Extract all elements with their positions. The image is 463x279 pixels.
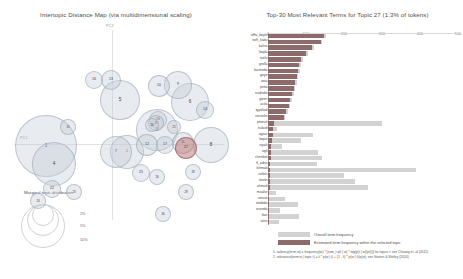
topic-bubble-label: 7 bbox=[115, 150, 117, 154]
bar-topic-frequency bbox=[268, 179, 270, 184]
topic-bubble-24[interactable]: 24 bbox=[30, 193, 46, 209]
topic-bubble-16[interactable]: 16 bbox=[85, 71, 103, 89]
topic-bubble-label: 6 bbox=[189, 100, 192, 105]
topic-bubble-label: 16 bbox=[92, 78, 96, 82]
term-label: tlan bbox=[262, 214, 268, 218]
topic-bubble-label: 14 bbox=[203, 108, 207, 112]
bar-topic-frequency bbox=[268, 40, 321, 45]
bar-topic-frequency bbox=[268, 92, 292, 97]
bar-topic-frequency bbox=[268, 69, 298, 74]
intertopic-map-title: Intertopic Distance Map (via multidimens… bbox=[0, 11, 232, 18]
bar-topic-frequency bbox=[268, 57, 301, 62]
ldavis-root: Intertopic Distance Map (via multidimens… bbox=[0, 0, 463, 279]
topic-bubble-label: 13 bbox=[109, 78, 113, 82]
term-label: kahra bbox=[259, 45, 268, 49]
topic-bubble-17[interactable]: 17 bbox=[156, 136, 174, 154]
legend-label-overall: Overall term frequency bbox=[314, 232, 353, 237]
topic-bubble-26[interactable]: 26 bbox=[149, 169, 165, 185]
bar-overall-frequency bbox=[268, 202, 298, 207]
bar-topic-frequency bbox=[268, 121, 274, 126]
topic-bubble-13[interactable]: 13 bbox=[101, 70, 121, 90]
bar-topic-frequency bbox=[268, 51, 306, 56]
bar-topic-frequency bbox=[268, 202, 269, 207]
topic-bubble-12[interactable]: 12 bbox=[136, 134, 158, 156]
topic-bubble-21[interactable]: 21 bbox=[167, 120, 181, 134]
term-label: ogli bbox=[262, 150, 267, 154]
topic-bubble-label: 23 bbox=[72, 191, 75, 194]
topic-bubble-label: 20 bbox=[150, 124, 153, 127]
term-label: nulard bbox=[258, 127, 268, 131]
term-label: ptonuti bbox=[257, 121, 268, 125]
topic-bubble-20[interactable]: 20 bbox=[145, 118, 159, 132]
bar-overall-frequency bbox=[268, 197, 285, 202]
term-label: loqiut bbox=[259, 138, 267, 142]
term-label: nadinda bbox=[255, 92, 267, 96]
topic-bubble-8[interactable]: 8 bbox=[193, 127, 229, 163]
term-label: ahmud bbox=[257, 185, 268, 189]
term-label: bayla bbox=[259, 51, 267, 55]
intertopic-distance-panel: Intertopic Distance Map (via multidimens… bbox=[0, 0, 232, 279]
topic-bubble-14[interactable]: 14 bbox=[196, 101, 214, 119]
topic-bubble-10[interactable]: 10 bbox=[148, 75, 170, 97]
legend-row-overall: Overall term frequency bbox=[278, 231, 463, 239]
term-label: nerselin bbox=[255, 115, 267, 119]
bar-topic-frequency bbox=[268, 144, 271, 149]
legend-swatch-overall bbox=[278, 232, 310, 237]
bar-topic-frequency bbox=[268, 74, 297, 79]
topic-bubble-29[interactable]: 29 bbox=[178, 184, 194, 200]
bar-topic-frequency bbox=[268, 191, 269, 196]
axis-label-pc2: PC2 bbox=[106, 24, 114, 28]
term-label: attru bbox=[260, 220, 267, 224]
term-label: goye bbox=[260, 74, 268, 78]
topic-bubble-28[interactable]: 28 bbox=[185, 164, 201, 180]
bar-topic-frequency bbox=[268, 45, 312, 50]
bar-topic-frequency bbox=[268, 197, 269, 202]
bar-overall-frequency bbox=[268, 133, 313, 138]
term-label: bastinda bbox=[254, 69, 267, 73]
bar-overall-frequency bbox=[268, 185, 368, 190]
bar-topic-frequency bbox=[268, 86, 294, 91]
topic-bubble-label: 17 bbox=[163, 143, 167, 147]
topic-bubble-27[interactable]: 27 bbox=[175, 137, 197, 159]
topic-bubble-23[interactable]: 23 bbox=[66, 184, 82, 200]
topic-bubble-25[interactable]: 25 bbox=[132, 164, 150, 182]
legend-circle-10pct bbox=[21, 204, 65, 248]
topic-bubble-label: 5 bbox=[119, 98, 122, 103]
bar-overall-frequency bbox=[268, 179, 355, 184]
bar-topic-frequency bbox=[268, 168, 270, 173]
topic-bubble-label: 21 bbox=[172, 126, 175, 129]
term-label: ogian bbox=[259, 133, 268, 137]
legend-size-2pct: 2% bbox=[80, 212, 86, 216]
bar-overall-frequency bbox=[268, 191, 276, 196]
bar-topic-frequency bbox=[268, 214, 269, 219]
footnote-relevance: 2. relevance(term w | topic t) = λ * p(w… bbox=[273, 255, 463, 260]
term-label: nHa_boyle bbox=[251, 34, 268, 38]
bar-topic-frequency bbox=[268, 115, 284, 120]
bar-topic-frequency bbox=[268, 173, 270, 178]
bar-topic-frequency bbox=[268, 150, 271, 155]
barchart-legend: Overall term frequency Estimated term fr… bbox=[278, 231, 463, 247]
topic-bubble-label: 27 bbox=[184, 146, 188, 150]
term-label: cherdati bbox=[255, 156, 267, 160]
term-label: mualor bbox=[257, 191, 268, 195]
bar-overall-frequency bbox=[268, 162, 317, 167]
topic-bubble-22[interactable]: 22 bbox=[43, 180, 61, 198]
topic-bubble-7[interactable]: 7 bbox=[100, 136, 132, 168]
topic-bubble-label: 12 bbox=[145, 143, 149, 147]
bar-topic-frequency bbox=[268, 109, 286, 114]
legend-size-10pct: 10% bbox=[80, 238, 88, 242]
topic-bubble-30[interactable]: 30 bbox=[155, 206, 171, 222]
bar-topic-frequency bbox=[268, 133, 273, 138]
topic-bubble-label: 26 bbox=[155, 176, 158, 179]
bar-overall-frequency bbox=[268, 220, 279, 225]
topic-bubble-label: 29 bbox=[184, 191, 187, 194]
topic-bubble-label: 4 bbox=[53, 162, 56, 167]
bar-overall-frequency bbox=[268, 208, 280, 213]
term-label: ovanda bbox=[256, 208, 267, 212]
topic-bubble-label: 22 bbox=[50, 187, 54, 191]
barchart-bars: nHa_boylesoft_kadukahrabaylaraelugrollab… bbox=[232, 33, 463, 225]
term-bar-row[interactable]: attru bbox=[232, 219, 463, 225]
bar-topic-frequency bbox=[268, 138, 272, 143]
topic-bubble-15[interactable]: 15 bbox=[60, 119, 76, 135]
bar-topic-frequency bbox=[268, 104, 289, 109]
